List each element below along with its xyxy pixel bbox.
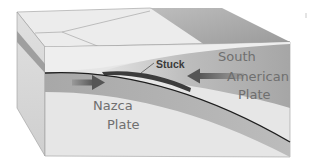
south-american-label-line3: Plate: [238, 87, 271, 102]
stuck-label: Stuck: [156, 58, 185, 70]
nazca-label-line1: Nazca: [93, 98, 133, 113]
south-american-label-line2: American: [227, 69, 289, 84]
south-american-label-line1: South: [218, 49, 256, 64]
nazca-label-line2: Plate: [107, 117, 140, 132]
subduction-diagram: Stuck South American Plate Nazca Plate: [0, 0, 310, 163]
